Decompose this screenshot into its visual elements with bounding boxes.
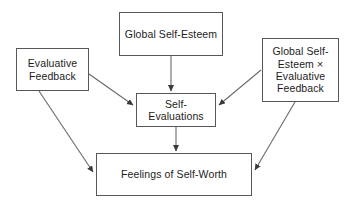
edge-feedback-to-self-eval bbox=[89, 74, 133, 105]
edge-interaction-to-self-eval bbox=[219, 70, 261, 105]
edge-interaction-to-worth bbox=[255, 102, 295, 170]
node-global-self-esteem: Global Self-Esteem bbox=[119, 12, 223, 56]
node-feelings-of-self-worth: Feelings of Self-Worth bbox=[96, 153, 252, 196]
node-self-evaluations-label: Self- Evaluations bbox=[148, 98, 203, 123]
diagram-canvas: Global Self-Esteem Evaluative Feedback G… bbox=[0, 0, 348, 208]
edge-feedback-to-worth bbox=[39, 91, 93, 172]
node-evaluative-feedback-label: Evaluative Feedback bbox=[28, 57, 77, 82]
node-evaluative-feedback: Evaluative Feedback bbox=[16, 48, 89, 91]
node-interaction-term-label: Global Self- Esteem × Evaluative Feedbac… bbox=[272, 45, 328, 95]
node-feelings-self-worth-label: Feelings of Self-Worth bbox=[121, 168, 227, 180]
node-global-self-esteem-x-evaluative-feedback: Global Self- Esteem × Evaluative Feedbac… bbox=[262, 38, 339, 102]
node-self-evaluations: Self- Evaluations bbox=[136, 93, 216, 127]
node-global-self-esteem-label: Global Self-Esteem bbox=[125, 28, 217, 40]
